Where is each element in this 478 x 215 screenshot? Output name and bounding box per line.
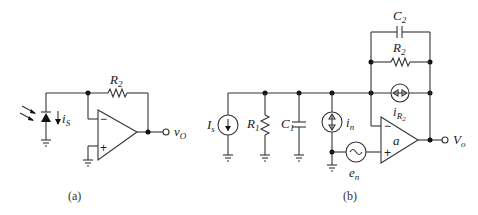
label-Is: Is [206, 117, 215, 134]
ground-icon [294, 155, 304, 161]
ground-icon [83, 160, 93, 166]
label-iS: iS [62, 111, 71, 128]
label-C2: C2 [393, 8, 407, 25]
light-arrows-icon [20, 106, 36, 121]
photodiode [41, 93, 51, 140]
label-gain-a: a [393, 133, 400, 148]
junction-dot [428, 138, 433, 143]
label-vO: vO [174, 124, 187, 141]
ground-icon [223, 155, 233, 161]
label-iR2: iR2 [393, 104, 406, 123]
label-C1: C1 [281, 116, 294, 133]
noninverting-input-label: + [100, 141, 107, 155]
circuit-diagram: iS R2 − + vO [0, 0, 478, 215]
junction-dot [146, 130, 151, 135]
label-Vo: Vo [453, 132, 466, 149]
resistor-R2 [391, 58, 410, 66]
label-R2: R2 [392, 40, 406, 57]
output-terminal [163, 129, 169, 135]
inverting-input-label: − [100, 112, 107, 126]
ground-icon [260, 155, 270, 161]
ground-icon [327, 165, 337, 171]
panel-b: Is R1 C1 [206, 8, 466, 203]
output-terminal [442, 137, 448, 143]
inverting-input-label: − [384, 119, 391, 133]
noninverting-input-label: + [384, 146, 391, 160]
caption-b: (b) [343, 189, 357, 203]
resistor-R2 [108, 89, 127, 97]
label-in: in [346, 115, 355, 132]
label-R1: R1 [246, 116, 259, 133]
label-en: en [349, 165, 360, 182]
panel-a: iS R2 − + vO [20, 72, 187, 203]
ground-icon [41, 140, 51, 146]
caption-a: (a) [68, 189, 81, 203]
resistor-R1 [261, 115, 269, 135]
label-R2: R2 [109, 72, 123, 89]
current-arrow-icon [55, 111, 61, 125]
